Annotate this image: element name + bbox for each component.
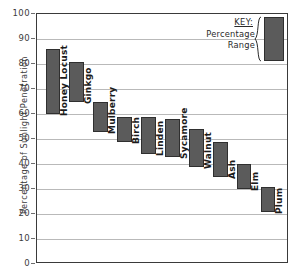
bar-category-label: Plum	[274, 187, 284, 213]
y-tick-label: 50	[18, 133, 30, 143]
gridline	[37, 214, 287, 215]
legend-description-line2: Range	[206, 40, 255, 51]
bar-category-label: Ginkgo	[83, 67, 93, 104]
bar-category-label: Sycamore	[179, 107, 189, 158]
bar-category-label: Elm	[250, 172, 260, 191]
range-bar	[213, 142, 228, 177]
legend-description-line1: Percentage	[206, 29, 255, 40]
legend-color-swatch	[264, 17, 284, 61]
y-tick-label: 100	[13, 8, 30, 18]
gridline	[37, 239, 287, 240]
range-bar	[165, 119, 180, 157]
range-bar	[93, 102, 108, 132]
y-tick-label: 90	[18, 33, 30, 43]
y-tick-mark	[31, 213, 35, 214]
legend-brace-icon	[254, 16, 262, 62]
legend-description: Percentage Range	[206, 29, 255, 50]
y-tick-mark	[31, 263, 35, 264]
bar-category-label: Walnut	[203, 131, 213, 168]
bar-category-label: Mulberry	[107, 86, 117, 133]
legend-title: KEY:	[234, 17, 253, 27]
y-tick-label: 0	[24, 258, 30, 268]
y-tick-mark	[31, 38, 35, 39]
y-tick-label: 70	[18, 83, 30, 93]
y-tick-label: 20	[18, 208, 30, 218]
bar-category-label: Linden	[155, 121, 165, 156]
range-bar	[117, 117, 132, 142]
bar-category-label: Birch	[131, 116, 141, 143]
y-tick-mark	[31, 13, 35, 14]
y-tick-label: 10	[18, 233, 30, 243]
legend-key-box: KEY: Percentage Range	[197, 16, 285, 63]
range-bar	[69, 62, 84, 102]
y-tick-mark	[31, 88, 35, 89]
y-tick-mark	[31, 138, 35, 139]
y-tick-mark	[31, 163, 35, 164]
range-bar	[141, 117, 156, 155]
y-tick-mark	[31, 238, 35, 239]
range-bar	[189, 129, 204, 167]
gridline	[37, 114, 287, 115]
y-tick-mark	[31, 113, 35, 114]
y-tick-label: 80	[18, 58, 30, 68]
plot-area: Honey LocustGinkgoMulberryBirchLindenSyc…	[36, 13, 288, 263]
y-tick-mark	[31, 63, 35, 64]
range-bar-chart: Percentage of Sunlight Penetration 01020…	[0, 0, 294, 278]
bar-category-label: Ash	[227, 159, 237, 178]
y-axis-tick-labels: 0102030405060708090100	[0, 0, 36, 278]
y-tick-mark	[31, 188, 35, 189]
y-tick-label: 40	[18, 158, 30, 168]
bar-category-label: Honey Locust	[59, 45, 69, 116]
y-tick-label: 30	[18, 183, 30, 193]
y-tick-label: 60	[18, 108, 30, 118]
